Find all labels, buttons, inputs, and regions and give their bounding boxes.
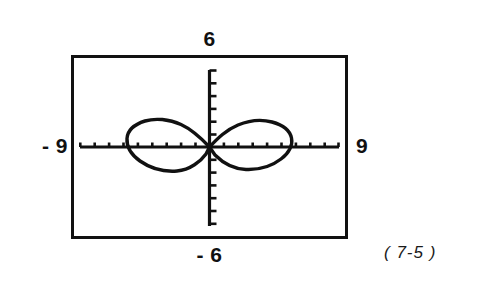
window-ymin-label: - 6 (0, 244, 419, 265)
window-xmin-label: - 9 (18, 135, 68, 156)
lemniscate-right-lobe (210, 121, 292, 170)
plot-canvas (74, 58, 345, 236)
window-xmax-label: 9 (356, 135, 386, 156)
window-ymax-label: 6 (0, 28, 419, 49)
lemniscate-left-lobe (127, 119, 210, 171)
figure-container: 6 - 6 - 9 9 ( 7-5 ) (0, 0, 481, 281)
figure-caption: ( 7-5 ) (384, 243, 436, 263)
calculator-screen-frame (71, 55, 348, 239)
